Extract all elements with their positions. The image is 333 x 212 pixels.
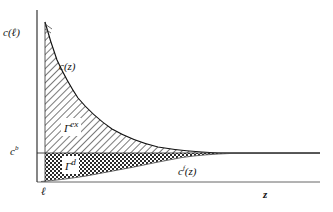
figure-container: c(ℓ) c(z) cb cf(z) ℓ z Γex Γd (0, 0, 333, 212)
gamma-ex-sup: ex (70, 119, 78, 129)
label-c-of-z: c(z) (59, 61, 76, 72)
region-label-gamma-d: Γd (62, 156, 79, 174)
concentration-profile-plot (0, 0, 333, 212)
label-c-of-ell: c(ℓ) (3, 27, 20, 38)
label-c-free-arg: (z) (185, 165, 197, 177)
label-c-bulk-sup: b (15, 144, 19, 152)
label-c-bulk: cb (10, 146, 18, 157)
label-c-free: cf(z) (178, 166, 196, 177)
label-z-axis: z (263, 189, 267, 200)
region-gamma-ex-fill (37, 18, 320, 158)
label-ell-origin: ℓ (41, 186, 46, 197)
gamma-d-sup: d (71, 157, 76, 167)
region-label-gamma-ex: Γex (61, 118, 81, 136)
